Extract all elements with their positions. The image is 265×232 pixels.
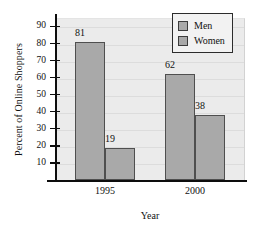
bar-value-1995-women: 19 xyxy=(90,134,130,144)
x-axis-line xyxy=(47,180,247,182)
y-tick-mark-40 xyxy=(50,111,60,112)
x-axis-title: Year xyxy=(55,210,245,221)
legend-swatch-icon-men xyxy=(178,21,188,31)
legend-item-women[interactable]: Women xyxy=(178,33,225,48)
y-tick-label-10: 10 xyxy=(16,158,46,168)
y-tick-label-90: 90 xyxy=(16,21,46,31)
y-tick-mark-90 xyxy=(50,26,60,27)
y-tick-label-40: 40 xyxy=(16,107,46,117)
y-tick-label-20: 20 xyxy=(16,141,46,151)
legend-item-men[interactable]: Men xyxy=(178,18,225,33)
y-tick-mark-60 xyxy=(50,77,60,78)
bar-chart-figure: Percent of Online Shoppers 90 80 70 60 5… xyxy=(0,0,265,232)
y-tick-label-80: 80 xyxy=(16,39,46,49)
legend: Men Women xyxy=(172,13,233,53)
legend-swatch-icon-women xyxy=(178,36,188,46)
y-tick-mark-80 xyxy=(50,43,60,44)
legend-label-men: Men xyxy=(194,21,212,31)
bar-1995-men[interactable] xyxy=(75,42,105,180)
y-tick-mark-10 xyxy=(50,162,60,163)
y-tick-label-60: 60 xyxy=(16,73,46,83)
bar-1995-women[interactable] xyxy=(105,148,135,180)
y-axis-line xyxy=(55,14,57,182)
bar-2000-men[interactable] xyxy=(165,74,195,180)
y-tick-mark-20 xyxy=(50,145,60,146)
y-tick-label-70: 70 xyxy=(16,56,46,66)
legend-label-women: Women xyxy=(194,36,225,46)
y-tick-mark-30 xyxy=(50,128,60,129)
y-tick-label-30: 30 xyxy=(16,124,46,134)
bar-2000-women[interactable] xyxy=(195,115,225,180)
bar-value-2000-men: 62 xyxy=(150,60,190,70)
y-tick-mark-50 xyxy=(50,94,60,95)
bar-value-1995-men: 81 xyxy=(60,28,100,38)
bar-value-2000-women: 38 xyxy=(180,101,220,111)
y-tick-label-50: 50 xyxy=(16,90,46,100)
x-tick-label-1995: 1995 xyxy=(85,186,125,196)
y-tick-mark-70 xyxy=(50,60,60,61)
x-tick-label-2000: 2000 xyxy=(175,186,215,196)
